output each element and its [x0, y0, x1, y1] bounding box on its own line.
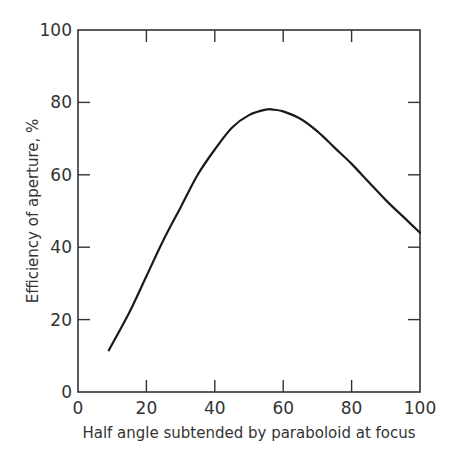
y-tick-label: 40 [50, 237, 72, 257]
y-tick-label: 0 [61, 382, 72, 402]
x-tick-labels: 020406080100 [73, 398, 437, 418]
x-tick-label: 0 [73, 398, 84, 418]
tick-marks [78, 30, 420, 392]
y-tick-labels: 020406080100 [40, 20, 72, 402]
x-tick-label: 100 [404, 398, 436, 418]
efficiency-curve [109, 109, 420, 350]
x-tick-label: 80 [341, 398, 363, 418]
x-axis-label: Half angle subtended by paraboloid at fo… [82, 424, 415, 442]
x-tick-label: 40 [204, 398, 226, 418]
y-tick-label: 80 [50, 92, 72, 112]
y-tick-label: 100 [40, 20, 72, 40]
y-axis-label: Efficiency of aperture, % [24, 119, 42, 304]
x-tick-label: 20 [136, 398, 158, 418]
y-tick-label: 60 [50, 165, 72, 185]
y-tick-label: 20 [50, 310, 72, 330]
efficiency-chart: 020406080100 020406080100 Half angle sub… [0, 0, 455, 459]
plot-frame [78, 30, 420, 392]
x-tick-label: 60 [272, 398, 294, 418]
